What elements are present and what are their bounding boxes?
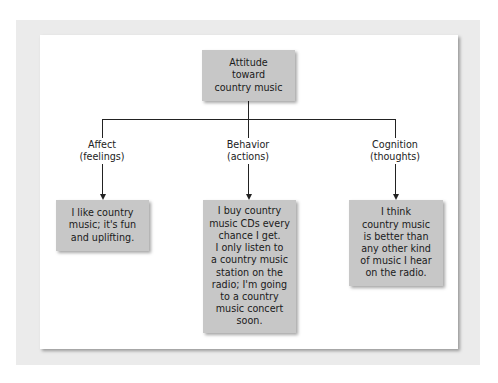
root-node: Attitude toward country music — [202, 50, 295, 101]
affect-label: Affect (feelings) — [67, 138, 137, 164]
cognition-example-node: I think country music is better than any… — [349, 200, 443, 286]
horizontal-connector — [102, 119, 396, 120]
affect-example-node: I like country music; it's fun and uplif… — [56, 200, 149, 251]
root-connector — [248, 101, 249, 120]
cognition-label: Cognition (thoughts) — [355, 138, 435, 164]
behavior-label: Behavior (actions) — [213, 138, 283, 164]
behavior-example-node: I buy country music CDs every chance I g… — [203, 200, 296, 333]
